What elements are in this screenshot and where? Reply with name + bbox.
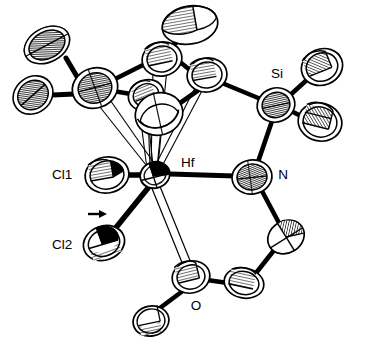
bond-cp1-me2 [52,94,75,95]
atom-label-o: O [191,298,202,313]
atom-label-cl1: Cl1 [52,167,72,182]
atom-label-si: Si [271,66,283,81]
atom-label-hf: Hf [181,155,195,170]
bond-hf-n [170,174,235,176]
atom-label-n: N [278,167,288,182]
atom-label-cl2: Cl2 [52,237,72,252]
ortep-structure-figure: Si Hf N Cl1 Cl2 O [0,0,369,352]
